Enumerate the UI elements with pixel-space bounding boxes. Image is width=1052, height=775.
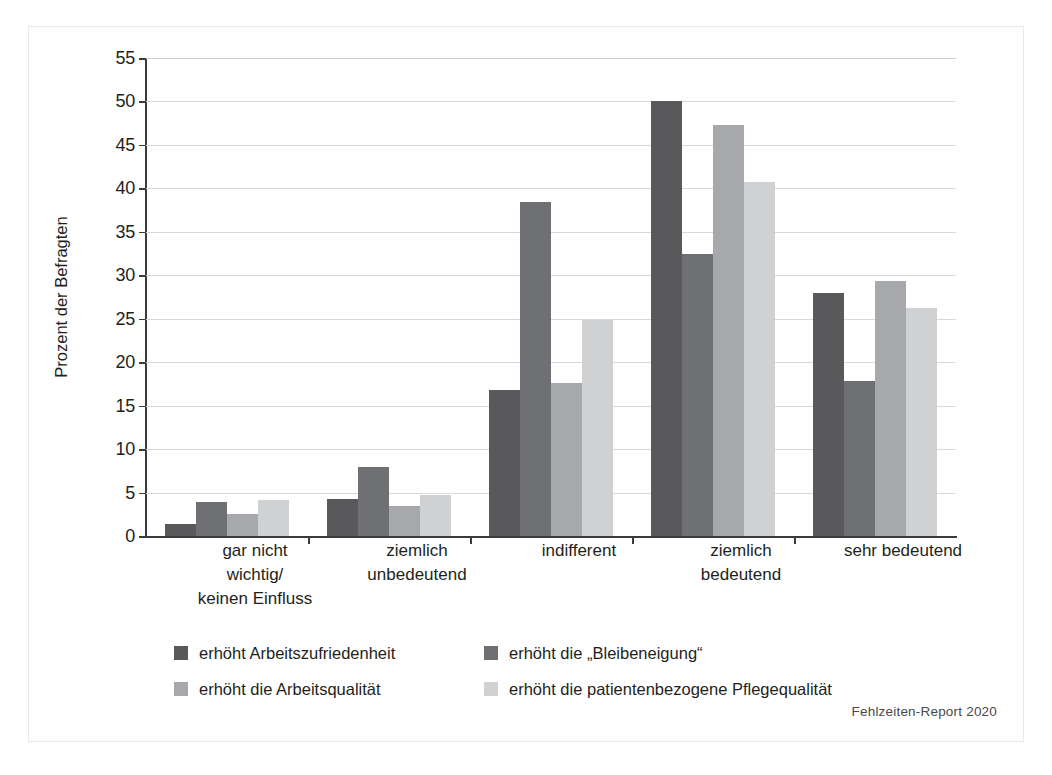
y-tick-mark — [139, 406, 146, 408]
gridline — [146, 58, 956, 59]
legend-label: erhöht die patientenbezogene Pflegequali… — [509, 680, 832, 699]
x-axis-line — [145, 536, 957, 538]
y-tick-label: 0 — [125, 526, 135, 547]
y-tick-label: 15 — [115, 395, 135, 416]
y-tick-label: 10 — [115, 439, 135, 460]
gridline — [146, 275, 956, 276]
bar — [520, 202, 551, 536]
bar — [813, 293, 844, 536]
y-tick-label: 55 — [115, 48, 135, 69]
x-category-label: indifferent — [498, 539, 660, 563]
y-axis-title: Prozent der Befragten — [52, 216, 71, 377]
gridline — [146, 145, 956, 146]
y-axis-title-wrap: Prozent der Befragten — [63, 58, 83, 536]
y-tick-label: 50 — [115, 91, 135, 112]
bar — [358, 467, 389, 536]
y-tick-mark — [139, 145, 146, 147]
y-tick-mark — [139, 319, 146, 321]
bar — [227, 514, 258, 536]
legend-label: erhöht die „Bleibeneigung“ — [509, 644, 703, 663]
bar — [165, 524, 196, 536]
legend-label: erhöht die Arbeitsqualität — [199, 680, 381, 699]
bar — [327, 499, 358, 536]
x-category-label: ziemlich unbedeutend — [336, 539, 498, 587]
y-tick-label: 5 — [125, 482, 135, 503]
y-tick-mark — [139, 188, 146, 190]
y-tick-mark — [139, 536, 146, 538]
gridline — [146, 188, 956, 189]
bar — [389, 506, 420, 536]
bar — [875, 281, 906, 537]
bar — [489, 390, 520, 536]
x-category-label: ziemlich bedeutend — [660, 539, 822, 587]
y-tick-label: 40 — [115, 178, 135, 199]
bar — [906, 308, 937, 536]
y-tick-mark — [139, 362, 146, 364]
y-tick-label: 25 — [115, 308, 135, 329]
legend-swatch-icon — [484, 682, 498, 696]
y-axis-line — [145, 58, 147, 536]
legend-item[interactable]: erhöht die „Bleibeneigung“ — [484, 644, 964, 663]
bar — [551, 383, 582, 536]
y-tick-mark — [139, 101, 146, 103]
y-tick-mark — [139, 275, 146, 277]
bar — [844, 381, 875, 536]
plot-area: 0510152025303540455055 — [146, 58, 956, 536]
y-tick-mark — [139, 449, 146, 451]
legend-item[interactable]: erhöht die patientenbezogene Pflegequali… — [484, 680, 964, 699]
legend-swatch-icon — [174, 682, 188, 696]
y-tick-label: 35 — [115, 221, 135, 242]
bar — [420, 495, 451, 536]
y-tick-label: 20 — [115, 352, 135, 373]
y-tick-label: 30 — [115, 265, 135, 286]
bar — [582, 320, 613, 536]
legend-label: erhöht Arbeitszufriedenheit — [199, 644, 395, 663]
bar — [258, 500, 289, 536]
bar — [682, 254, 713, 536]
bar — [651, 101, 682, 536]
bar — [713, 125, 744, 536]
y-tick-mark — [139, 493, 146, 495]
y-tick-mark — [139, 232, 146, 234]
legend-swatch-icon — [174, 646, 188, 660]
bar — [744, 182, 775, 536]
figure-frame: Prozent der Befragten 051015202530354045… — [28, 26, 1024, 742]
gridline — [146, 232, 956, 233]
chart-legend: erhöht Arbeitszufriedenheiterhöht die „B… — [174, 635, 964, 707]
legend-item[interactable]: erhöht die Arbeitsqualität — [174, 680, 484, 699]
x-category-label: gar nicht wichtig/ keinen Einfluss — [174, 539, 336, 611]
legend-item[interactable]: erhöht Arbeitszufriedenheit — [174, 644, 484, 663]
figure-source-note: Fehlzeiten-Report 2020 — [852, 704, 997, 719]
y-tick-label: 45 — [115, 134, 135, 155]
legend-swatch-icon — [484, 646, 498, 660]
x-category-label: sehr bedeutend — [822, 539, 984, 563]
gridline — [146, 101, 956, 102]
y-tick-mark — [139, 58, 146, 60]
bar — [196, 502, 227, 536]
